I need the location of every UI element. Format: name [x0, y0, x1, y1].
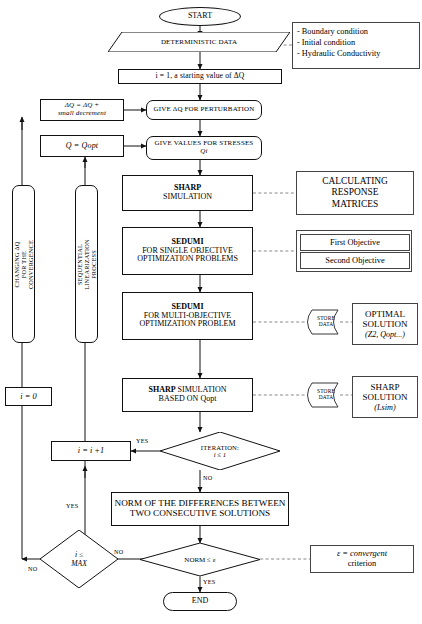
optimal-solution-line-2: SOLUTION — [363, 319, 408, 330]
edge-label-iteration-yes: YES — [136, 437, 148, 444]
store-data-line-2: DATA — [319, 395, 334, 401]
node-i-max-label-2: MAX — [71, 559, 87, 568]
node-give-stresses[interactable]: GIVE VALUES FOR STRESSES Qi — [146, 136, 262, 160]
node-end[interactable]: END — [163, 592, 237, 611]
node-sharp-based-label-2: BASED ON Qopt — [159, 395, 217, 404]
panel-conditions: - Boundary condition - Initial condition… — [292, 22, 420, 69]
edge-label-iteration-no: NO — [203, 474, 212, 481]
node-sedumi-multi[interactable]: SEDUMI FOR MULTI-OBJECTIVE OPTIMIZATION … — [122, 292, 253, 340]
node-i-increment-label: i = i +1 — [78, 446, 104, 455]
panel-calculating-response: CALCULATING RESPONSE MATRICES — [296, 171, 414, 215]
node-give-stresses-label-2: Qi — [200, 148, 207, 156]
node-sedumi-single-label-3: OPTIMIZATION PROBLEMS — [137, 255, 238, 264]
condition-item: - Hydraulic Conductivity — [297, 48, 415, 59]
node-sharp-based-on-qopt[interactable]: SHARP SIMULATION BASED ON Qopt — [122, 378, 253, 412]
node-sedumi-single[interactable]: SEDUMI FOR SINGLE OBJECTIVE OPTIMIZATION… — [122, 227, 253, 275]
node-q-equals-qopt[interactable]: Q = Qopt — [40, 135, 124, 157]
epsilon-note-line-2: criterion — [337, 559, 387, 570]
panel-epsilon-note: ε = convergent criterion — [310, 545, 414, 573]
store-data-line-2: DATA — [319, 322, 334, 328]
node-start-label: START — [188, 12, 212, 21]
node-norm-label-2: TWO CONSECUTIVE SOLUTIONS — [130, 509, 270, 519]
panel-sharp-solution: SHARP SOLUTION (Lsim) — [352, 376, 418, 418]
optimal-solution-line-1: OPTIMAL — [365, 309, 405, 320]
node-give-dq-label: GIVE ΔQ FOR PERTURBATION — [154, 106, 255, 114]
node-iteration-decision[interactable]: ITERATION: i ≤ 1 — [160, 432, 280, 470]
node-norm-decision[interactable]: NORM ≤ ε — [140, 543, 260, 576]
edge-label-max-yes: YES — [66, 502, 78, 509]
label-changing-dq: CHANGING ΔQ FOR THE CONVERGENCE — [12, 185, 35, 343]
edge-label-norm-yes: YES — [203, 578, 215, 585]
node-start[interactable]: START — [159, 7, 241, 26]
condition-item: - Boundary condition — [297, 26, 415, 37]
condition-item: - Initial condition — [297, 37, 415, 48]
store-data-optimal: STORE DATA — [311, 314, 341, 330]
optimal-solution-line-3: (Z2, Qopt...) — [365, 330, 405, 339]
node-i-zero[interactable]: i = 0 — [5, 387, 52, 406]
edge-label-max-no: NO — [28, 565, 37, 572]
sharp-solution-line-3: (Lsim) — [374, 403, 395, 413]
node-i-max-decision[interactable]: i ≤ MAX — [40, 530, 118, 588]
calc-response-line-1: CALCULATING — [322, 176, 388, 187]
panel-optimal-solution: OPTIMAL SOLUTION (Z2, Qopt...) — [352, 303, 418, 345]
node-dq-update-label-2: small decrement — [58, 110, 106, 118]
label-sequential-linearization: SEQUENTIAL LINEARIZATION PROCESS — [75, 185, 98, 343]
epsilon-note-line-1: ε = convergent — [337, 549, 387, 560]
node-norm-decision-label: NORM ≤ ε — [184, 556, 215, 564]
sharp-solution-line-1: SHARP — [370, 382, 399, 393]
sharp-solution-line-2: SOLUTION — [363, 392, 408, 403]
label-changing-dq-text: CHANGING ΔQ FOR THE CONVERGENCE — [13, 239, 34, 288]
node-deterministic-data-label: DETERMINISTIC DATA — [161, 38, 237, 46]
node-dq-update[interactable]: ΔQ = ΔQ + small decrement — [40, 99, 124, 121]
node-sharp-simulation[interactable]: SHARP SIMULATION — [122, 175, 253, 211]
panel-objectives: First Objective Second Objective — [296, 230, 412, 272]
objective-first[interactable]: First Objective — [300, 234, 410, 251]
label-sequential-text: SEQUENTIAL LINEARIZATION PROCESS — [76, 239, 97, 290]
node-i-zero-label: i = 0 — [20, 392, 36, 401]
edge-label-norm-no: NO — [114, 548, 123, 555]
objective-second[interactable]: Second Objective — [300, 252, 410, 269]
node-i-increment[interactable]: i = i +1 — [51, 441, 131, 461]
node-i-max-label-1: i ≤ — [75, 550, 83, 559]
node-initialization[interactable]: i = 1, a starting value of ΔQ — [118, 69, 282, 84]
node-iteration-label-2: i ≤ 1 — [214, 451, 226, 458]
node-sharp-simulation-label-2: SIMULATION — [163, 193, 212, 202]
node-iteration-label-1: ITERATION: — [201, 444, 239, 451]
objective-second-label: Second Objective — [325, 256, 384, 265]
node-deterministic-data[interactable]: DETERMINISTIC DATA — [108, 32, 290, 52]
calc-response-line-2: RESPONSE — [332, 187, 379, 198]
node-initialization-label: i = 1, a starting value of ΔQ — [155, 72, 244, 80]
node-norm-differences[interactable]: NORM OF THE DIFFERENCES BETWEEN TWO CONS… — [111, 492, 289, 526]
node-end-label: END — [192, 597, 208, 606]
store-data-sharp: STORE DATA — [311, 387, 341, 403]
objective-first-label: First Objective — [330, 238, 380, 247]
node-give-dq[interactable]: GIVE ΔQ FOR PERTURBATION — [146, 100, 262, 120]
node-q-equals-qopt-label: Q = Qopt — [66, 142, 98, 151]
calc-response-line-3: MATRICES — [332, 199, 378, 210]
node-sedumi-multi-label-3: OPTIMIZATION PROBLEM — [139, 320, 235, 329]
